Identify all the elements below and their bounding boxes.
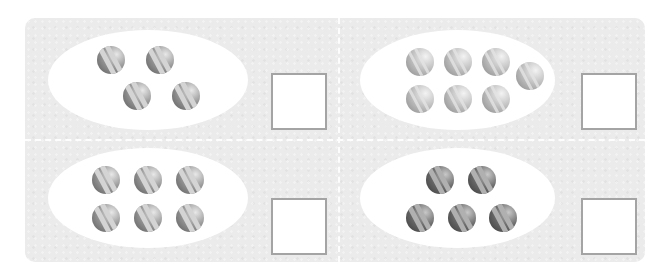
ball-icon (468, 166, 496, 194)
ball-group-ellipse-bottom-right (360, 148, 555, 248)
ball-icon (406, 48, 434, 76)
answer-box-top-right[interactable] (581, 73, 637, 130)
ball-icon (123, 82, 151, 110)
ball-icon (406, 85, 434, 113)
ball-icon (176, 166, 204, 194)
ball-icon (92, 204, 120, 232)
ball-icon (134, 166, 162, 194)
ball-icon (444, 85, 472, 113)
ball-group-ellipse-bottom-left (48, 148, 248, 248)
ball-icon (448, 204, 476, 232)
horizontal-divider (25, 139, 645, 141)
ball-icon (176, 204, 204, 232)
ball-icon (482, 48, 510, 76)
ball-icon (489, 204, 517, 232)
ball-icon (97, 46, 125, 74)
answer-box-top-left[interactable] (271, 73, 327, 130)
ball-icon (134, 204, 162, 232)
ball-icon (444, 48, 472, 76)
ball-icon (516, 62, 544, 90)
ball-icon (172, 82, 200, 110)
vertical-divider (338, 18, 340, 262)
ball-icon (92, 166, 120, 194)
ball-icon (146, 46, 174, 74)
ball-icon (426, 166, 454, 194)
ball-group-ellipse-top-left (48, 30, 248, 130)
answer-box-bottom-left[interactable] (271, 198, 327, 255)
answer-box-bottom-right[interactable] (581, 198, 637, 255)
ball-icon (482, 85, 510, 113)
ball-icon (406, 204, 434, 232)
